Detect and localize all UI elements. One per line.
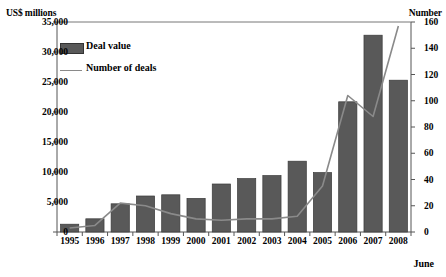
x-axis-label-2000: 2000 [187,236,206,246]
left-axis-tick-label: 20,000 [42,107,68,117]
legend-bar-label: Deal value [86,40,131,51]
x-axis-label-1995: 1995 [60,236,79,246]
right-axis-tick-label: 100 [424,96,438,106]
left-axis-tick-label: 25,000 [42,77,68,87]
x-axis-label-2004: 2004 [288,236,307,246]
right-axis-tick-label: 60 [424,148,434,158]
left-axis-tick-label: 5,000 [47,197,68,207]
left-axis-tick-label: 30,000 [42,47,68,57]
right-axis-tick-label: 40 [424,175,434,185]
x-axis-label-2007: 2007 [364,236,383,246]
bar-deal-value-2007 [364,35,382,232]
right-axis-tick-label: 140 [424,43,438,53]
bar-deal-value-2003 [263,176,281,232]
period-note: June [413,258,434,269]
x-axis-label-1998: 1998 [136,236,155,246]
left-axis-tick-label: 35,000 [42,17,68,27]
x-axis-label-2006: 2006 [338,236,357,246]
x-axis-label-1997: 1997 [111,236,130,246]
x-axis-label-2002: 2002 [237,236,256,246]
right-axis-tick-label: 80 [424,122,434,132]
x-axis-label-2001: 2001 [212,236,231,246]
right-axis-tick-label: 0 [424,227,429,237]
left-axis-tick-label: 15,000 [42,137,68,147]
x-axis-label-2008: 2008 [389,236,408,246]
left-axis-tick-label: 10,000 [42,167,68,177]
right-axis-tick-label: 20 [424,201,434,211]
x-axis-label-1999: 1999 [161,236,180,246]
bar-deal-value-2005 [313,173,331,232]
bar-deal-value-2008 [389,80,407,232]
bar-deal-value-2000 [187,198,205,232]
legend-line-label: Number of deals [86,62,156,73]
bar-deal-value-1998 [136,196,154,232]
bar-deal-value-2002 [238,179,256,232]
right-axis-tick-label: 120 [424,70,438,80]
bar-deal-value-2006 [339,102,357,232]
right-axis-tick-label: 160 [424,17,438,27]
bar-deal-value-2004 [288,161,306,232]
x-axis-label-2005: 2005 [313,236,332,246]
bar-deal-value-2001 [212,184,230,232]
x-axis-label-1996: 1996 [85,236,104,246]
x-axis-label-2003: 2003 [262,236,281,246]
legend-line-swatch [60,70,82,71]
chart-container: US$ millions Number Deal value Number of… [0,0,446,277]
